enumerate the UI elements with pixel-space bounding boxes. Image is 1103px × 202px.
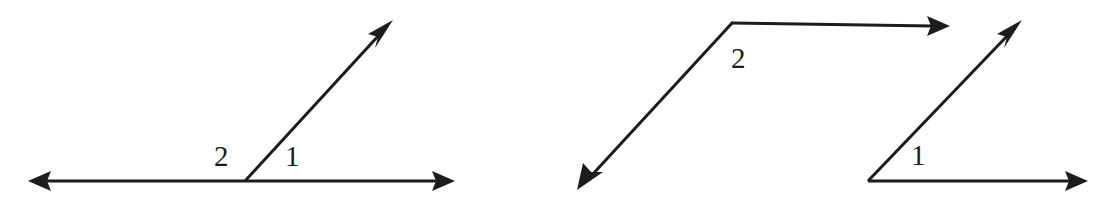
angle-2-group — [577, 16, 950, 190]
angle-2-ray-right-shaft — [732, 23, 932, 26]
angle-1-ray-up-right-shaft — [868, 34, 1009, 181]
right-diagram-angle-label-1: 1 — [911, 141, 926, 170]
right-diagram-angle-label-2: 2 — [731, 44, 746, 73]
angle-1-group — [868, 20, 1088, 191]
left-diagram-angle-label-1: 1 — [285, 142, 300, 171]
geometry-figure-svg — [0, 0, 1103, 202]
angle-2-ray-down-left-shaft — [592, 22, 733, 175]
left-diagram — [28, 20, 455, 191]
right-diagram — [577, 16, 1088, 191]
slanted-ray-shaft — [245, 34, 380, 181]
geometry-figure-canvas: 2 1 2 1 — [0, 0, 1103, 202]
left-diagram-angle-label-2: 2 — [214, 142, 229, 171]
